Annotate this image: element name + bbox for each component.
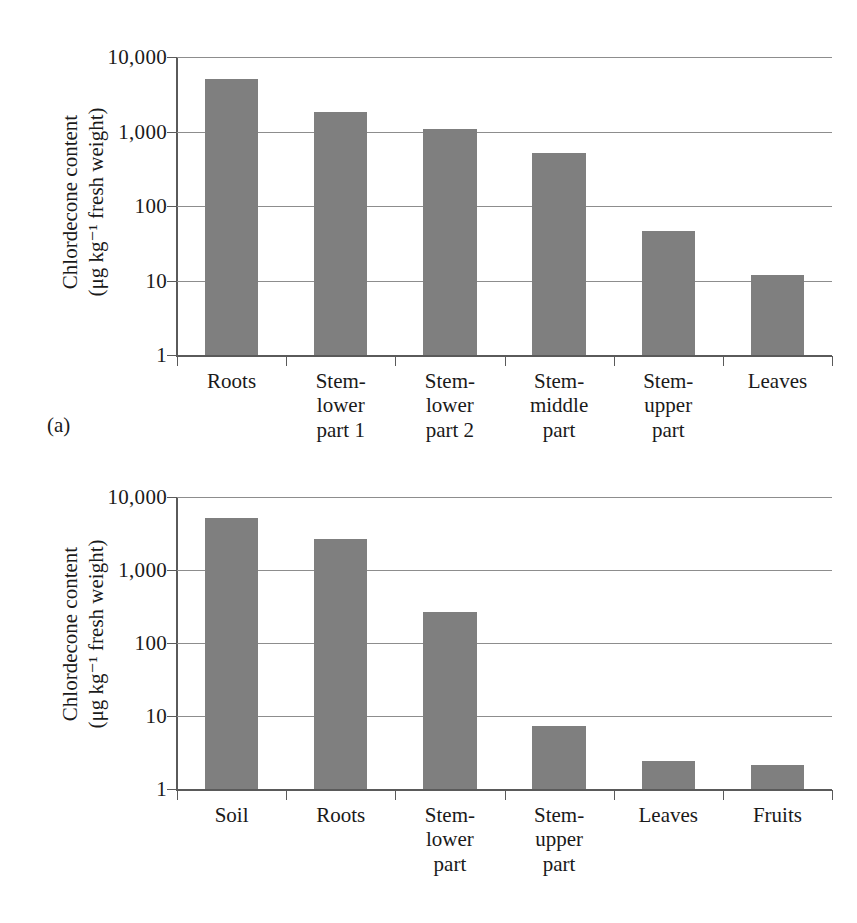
y-tick-mark [167,716,177,717]
bar [532,726,585,789]
y-tick-mark [167,643,177,644]
x-tick-mark [832,790,833,800]
y-axis-title-a: Chlordecone content (μg kg⁻¹ fresh weigh… [58,52,109,352]
bar [642,231,695,355]
y-tick-mark [167,281,177,282]
x-axis-category-label: Fruits [723,803,832,827]
x-tick-mark [177,356,178,366]
panel-letter-a: (a) [47,415,70,436]
x-axis-category-label: Soil [177,803,286,827]
bar [751,275,804,355]
x-tick-mark [395,790,396,800]
x-axis-category-label: Stem- middle part [505,369,614,442]
x-tick-mark [177,790,178,800]
y-tick-label: 100 [135,196,167,217]
x-tick-mark [395,356,396,366]
y-tick-mark [167,497,177,498]
gridline [177,281,832,282]
x-axis-category-label: Stem- lower part 1 [286,369,395,442]
y-tick-label: 10 [145,270,167,291]
x-axis-category-label: Stem- lower part [395,803,504,876]
y-tick-mark [167,570,177,571]
gridline [177,497,832,498]
plot-area-b: 10,0001,000100101 [177,497,832,789]
gridline [177,643,832,644]
x-tick-mark [614,790,615,800]
x-axis-category-label: Leaves [723,369,832,393]
x-axis-category-label: Roots [177,369,286,393]
bar [314,112,367,355]
bar [205,79,258,355]
gridline [177,716,832,717]
panel-a: Chlordecone content (μg kg⁻¹ fresh weigh… [0,0,857,462]
y-tick-label: 10,000 [107,487,167,508]
bar [423,612,476,789]
y-tick-label: 10 [145,706,167,727]
y-tick-label: 10,000 [107,47,167,68]
y-tick-mark [167,789,177,790]
gridline [177,570,832,571]
bar [314,539,367,789]
x-axis-category-label: Leaves [614,803,723,827]
plot-area-a: 10,0001,000100101 [177,57,832,355]
x-axis-category-label: Stem- upper part [614,369,723,442]
x-axis-category-label: Roots [286,803,395,827]
y-tick-mark [167,355,177,356]
bar [532,153,585,355]
y-tick-label: 100 [135,633,167,654]
x-axis-category-label: Stem- upper part [505,803,614,876]
y-tick-mark [167,57,177,58]
x-axis-category-label: Stem- lower part 2 [395,369,504,442]
gridline [177,206,832,207]
y-tick-label: 1 [156,779,167,800]
bar [205,518,258,789]
bar [642,761,695,789]
figure-two-panel-bar-charts: Chlordecone content (μg kg⁻¹ fresh weigh… [0,0,857,923]
panel-b: Chlordecone content (μg kg⁻¹ fresh weigh… [0,462,857,923]
y-tick-label: 1,000 [118,560,167,581]
x-tick-mark [723,790,724,800]
y-tick-label: 1,000 [118,121,167,142]
x-tick-mark [286,356,287,366]
bar [423,129,476,355]
y-tick-mark [167,206,177,207]
x-tick-mark [614,356,615,366]
gridline [177,132,832,133]
x-tick-mark [832,356,833,366]
x-tick-mark [286,790,287,800]
bar [751,765,804,789]
y-tick-label: 1 [156,345,167,366]
x-tick-mark [505,356,506,366]
gridline [177,57,832,58]
y-tick-mark [167,132,177,133]
y-axis-title-b: Chlordecone content (μg kg⁻¹ fresh weigh… [58,484,109,784]
x-tick-mark [723,356,724,366]
x-tick-mark [505,790,506,800]
